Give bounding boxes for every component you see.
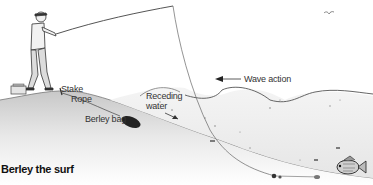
tackle-box-icon <box>11 84 26 94</box>
wave-action-arrow-icon <box>215 76 241 82</box>
label-berley-bag: Berley bag <box>85 115 126 124</box>
label-receding-water-1: Receding <box>146 92 182 101</box>
figure-caption: Berley the surf <box>1 163 74 175</box>
surf-berley-illustration <box>0 0 373 185</box>
angler-figure <box>25 12 56 90</box>
label-wave-action: Wave action <box>244 75 291 84</box>
label-rope: Rope <box>71 95 92 104</box>
seagull-icon <box>324 12 334 14</box>
label-stake: Stake <box>61 85 83 94</box>
fishing-rod <box>56 6 173 34</box>
label-receding-water-2: water <box>146 102 167 111</box>
